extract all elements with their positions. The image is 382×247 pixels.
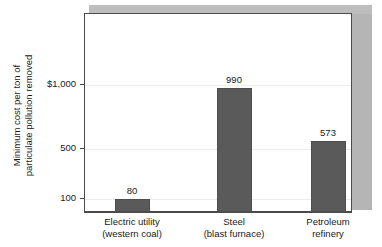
y-tick-label-500: 500	[60, 143, 76, 153]
y-tick-mark-100	[80, 198, 85, 199]
y-axis-title-line-2: particulate pollution removed	[22, 26, 34, 206]
bar-petroleum-refinery[interactable]	[311, 141, 346, 212]
bar-steel[interactable]	[217, 88, 252, 212]
x-category-line-1: Electric utility	[82, 216, 182, 228]
y-axis-line	[84, 13, 85, 213]
plot-area	[84, 13, 352, 212]
y-tick-label-100: 100	[60, 193, 76, 203]
plot-inner	[85, 14, 351, 211]
bar-value-label-electric-utility: 80	[102, 186, 162, 196]
x-category-line-1: Steel	[184, 216, 284, 228]
y-axis-title-line-1: Minimum cost per ton of	[11, 26, 23, 206]
x-category-label-electric-utility: Electric utility (western coal)	[82, 216, 182, 240]
x-category-line-2: (blast furnace)	[184, 228, 284, 240]
bar-electric-utility[interactable]	[115, 199, 150, 212]
y-tick-label-1000: $1,000	[47, 79, 76, 89]
bar-value-label-petroleum-refinery: 573	[298, 128, 358, 138]
x-category-line-2: (western coal)	[82, 228, 182, 240]
y-tick-mark-1000	[80, 84, 85, 85]
gridline-1000	[85, 85, 351, 86]
x-category-line-1: Petroleum	[278, 216, 378, 228]
y-axis-title: Minimum cost per ton of particulate poll…	[11, 26, 34, 206]
x-category-line-2: refinery	[278, 228, 378, 240]
y-tick-mark-500	[80, 148, 85, 149]
bar-value-label-steel: 990	[204, 75, 264, 85]
bar-chart-figure: $1,000 500 100 Minimum cost per ton of p…	[0, 0, 382, 247]
x-axis-line	[84, 212, 352, 213]
x-category-label-petroleum-refinery: Petroleum refinery	[278, 216, 378, 240]
x-category-label-steel: Steel (blast furnace)	[184, 216, 284, 240]
